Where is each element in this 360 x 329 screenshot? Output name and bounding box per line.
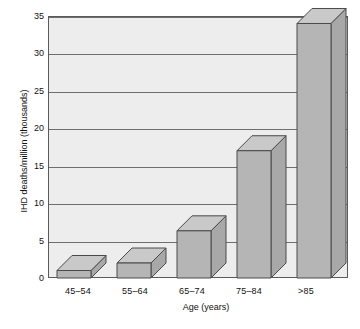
gridline-5	[49, 242, 347, 243]
y-tick-30: 30	[14, 48, 44, 58]
gridline-30	[49, 54, 347, 55]
gridline-10	[49, 204, 347, 205]
x-axis-title: Age (years)	[0, 302, 360, 312]
y-tick-0: 0	[14, 273, 44, 283]
x-axis-title-text: Age (years)	[183, 302, 230, 312]
gridline-15	[49, 167, 347, 168]
y-axis-title: IHD deaths/million (thousands)	[19, 63, 29, 239]
plot-area	[48, 16, 348, 278]
x-tick-85plus: >85	[271, 286, 341, 296]
y-tick-35: 35	[14, 11, 44, 21]
gridline-25	[49, 92, 347, 93]
gridline-20	[49, 129, 347, 130]
gridline-35	[49, 17, 347, 18]
bar-chart: 35 30 25 20 15 10 5 0 IHD deaths/million…	[0, 0, 360, 329]
